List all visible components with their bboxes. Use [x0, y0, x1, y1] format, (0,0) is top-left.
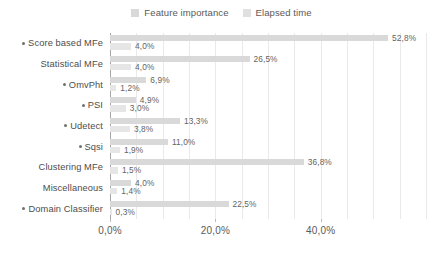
bar-row: 36,8%1,5%	[110, 157, 426, 178]
y-axis-label-psi: PSI	[82, 95, 103, 116]
bar-elapsed-time[interactable]: 1,5%	[110, 167, 118, 173]
bar-fill	[110, 188, 117, 194]
y-axis-label-score-based-mfe: Score based MFe	[22, 33, 103, 54]
bar-value-label: 3,8%	[134, 124, 153, 134]
y-axis-category-labels: Score based MFeStatistical MFeOmvPhtPSIU…	[0, 33, 107, 219]
category-label-text: Sqsi	[85, 142, 104, 152]
bar-fill	[110, 105, 126, 111]
bar-fill	[110, 147, 120, 153]
bar-row: 6,9%1,2%	[110, 74, 426, 95]
category-label-text: Miscellaneous	[43, 183, 103, 193]
bar-row: 26,5%4,0%	[110, 54, 426, 75]
bar-fill	[110, 201, 229, 207]
bar-elapsed-time[interactable]: 4,0%	[110, 43, 131, 49]
bar-fill	[110, 167, 118, 173]
bar-chart: Feature importance Elapsed time Score ba…	[0, 0, 443, 253]
category-bullet-icon	[79, 145, 82, 148]
x-axis-tick	[215, 219, 216, 222]
y-axis-label-omvpht: OmvPht	[63, 74, 103, 95]
bar-fill	[110, 56, 250, 62]
y-axis-label-statistical-mfe: Statistical MFe	[38, 54, 103, 75]
bar-value-label: 1,2%	[120, 83, 139, 93]
x-axis-tick	[321, 219, 322, 222]
bar-value-label: 11,0%	[172, 137, 195, 147]
legend-swatch-feature-importance	[131, 9, 139, 17]
legend-item-elapsed-time[interactable]: Elapsed time	[243, 7, 312, 18]
bar-elapsed-time[interactable]: 1,4%	[110, 188, 117, 194]
bar-feature-importance[interactable]: 52,8%	[110, 35, 388, 41]
bar-row: 4,9%3,0%	[110, 95, 426, 116]
bar-fill	[110, 126, 130, 132]
bar-value-label: 1,5%	[122, 165, 141, 175]
bar-row: 52,8%4,0%	[110, 33, 426, 54]
bar-fill	[110, 43, 131, 49]
x-axis-tick-label: 40,0%	[306, 225, 335, 236]
bar-feature-importance[interactable]: 11,0%	[110, 139, 168, 145]
bar-feature-importance[interactable]: 4,9%	[110, 97, 136, 103]
bar-value-label: 3,0%	[130, 103, 149, 113]
category-label-text: OmvPht	[69, 80, 103, 90]
bar-value-label: 13,3%	[184, 116, 208, 126]
bar-value-label: 36,8%	[308, 157, 332, 167]
bar-fill	[110, 209, 112, 215]
bar-elapsed-time[interactable]: 3,0%	[110, 105, 126, 111]
y-axis-label-miscellaneous: Miscellaneous	[40, 178, 103, 199]
bar-value-label: 4,0%	[135, 62, 154, 72]
category-bullet-icon	[22, 42, 25, 45]
gridline	[426, 33, 427, 219]
bar-elapsed-time[interactable]: 3,8%	[110, 126, 130, 132]
category-bullet-icon	[22, 207, 25, 210]
bar-value-label: 1,4%	[121, 186, 140, 196]
x-axis-tick	[110, 219, 111, 222]
y-axis-label-clustering-mfe: Clustering MFe	[36, 157, 103, 178]
bar-elapsed-time[interactable]: 1,2%	[110, 85, 116, 91]
bar-value-label: 0,3%	[116, 207, 135, 217]
legend-item-feature-importance[interactable]: Feature importance	[131, 7, 228, 18]
category-bullet-icon	[82, 104, 85, 107]
bar-row: 13,3%3,8%	[110, 116, 426, 137]
bar-value-label: 52,8%	[392, 33, 416, 43]
category-label-text: PSI	[88, 100, 103, 110]
bar-value-label: 1,9%	[124, 145, 143, 155]
bar-fill	[110, 77, 146, 83]
legend-label-feature-importance: Feature importance	[144, 7, 228, 18]
bar-value-label: 6,9%	[150, 75, 169, 85]
bar-row: 11,0%1,9%	[110, 136, 426, 157]
bar-feature-importance[interactable]: 26,5%	[110, 56, 250, 62]
bar-value-label: 4,0%	[135, 41, 154, 51]
y-axis-label-sqsi: Sqsi	[79, 136, 104, 157]
bar-feature-importance[interactable]: 4,0%	[110, 180, 131, 186]
bar-elapsed-time[interactable]: 4,0%	[110, 64, 131, 70]
bar-feature-importance[interactable]: 6,9%	[110, 77, 146, 83]
y-axis-label-domain-classifier: Domain Classifier	[22, 198, 103, 219]
legend-label-elapsed-time: Elapsed time	[256, 7, 312, 18]
category-bullet-icon	[64, 124, 67, 127]
bar-feature-importance[interactable]: 13,3%	[110, 118, 180, 124]
chart-legend: Feature importance Elapsed time	[0, 7, 443, 18]
bar-fill	[110, 35, 388, 41]
y-axis-label-udetect: Udetect	[64, 116, 103, 137]
bar-fill	[110, 97, 136, 103]
bar-fill	[110, 159, 304, 165]
bar-fill	[110, 118, 180, 124]
category-label-text: Udetect	[70, 121, 103, 131]
bar-feature-importance[interactable]: 36,8%	[110, 159, 304, 165]
bar-fill	[110, 64, 131, 70]
bar-row: 4,0%1,4%	[110, 178, 426, 199]
bar-value-label: 26,5%	[254, 54, 278, 64]
x-axis-tick-label: 0,0%	[98, 225, 122, 236]
category-label-text: Domain Classifier	[28, 204, 103, 214]
x-axis-tick-label: 20,0%	[201, 225, 230, 236]
legend-swatch-elapsed-time	[243, 9, 251, 17]
bar-feature-importance[interactable]: 22,5%	[110, 201, 229, 207]
bar-fill	[110, 139, 168, 145]
category-label-text: Statistical MFe	[41, 59, 103, 69]
category-label-text: Clustering MFe	[39, 162, 103, 172]
bar-fill	[110, 180, 131, 186]
bar-rows: 52,8%4,0%26,5%4,0%6,9%1,2%4,9%3,0%13,3%3…	[110, 33, 426, 219]
category-bullet-icon	[63, 83, 66, 86]
x-axis: 0,0%20,0%40,0%	[110, 219, 426, 221]
bar-elapsed-time[interactable]: 0,3%	[110, 209, 112, 215]
bar-elapsed-time[interactable]: 1,9%	[110, 147, 120, 153]
category-label-text: Score based MFe	[28, 38, 103, 48]
